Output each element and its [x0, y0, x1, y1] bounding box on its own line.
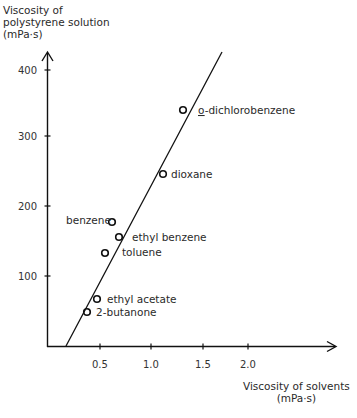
label-2-butanone: 2-butanone: [96, 306, 157, 318]
label-o-dichlorobenzene: o-dichlorobenzene: [198, 104, 295, 116]
chart-plot: 400 300 200 100 0.5 1.0 1.5 2.0 o-dichlo…: [0, 0, 357, 418]
x-tick-0-5: 0.5: [92, 359, 108, 370]
point-toluene: [102, 250, 109, 257]
label-benzene: benzene: [66, 214, 111, 226]
x-ticks: 0.5 1.0 1.5 2.0: [92, 344, 256, 371]
point-ethyl-benzene: [116, 234, 123, 241]
y-tick-100: 100: [18, 271, 37, 282]
point-dioxane: [160, 171, 167, 178]
label-ethyl-acetate: ethyl acetate: [107, 293, 177, 305]
label-toluene: toluene: [122, 246, 162, 258]
point-o-dichlorobenzene: [180, 107, 187, 114]
x-tick-2-0: 2.0: [240, 359, 256, 370]
label-ethyl-benzene: ethyl benzene: [132, 231, 207, 243]
x-tick-1-0: 1.0: [143, 359, 159, 370]
y-tick-400: 400: [18, 65, 37, 76]
point-ethyl-acetate: [94, 296, 101, 303]
x-tick-1-5: 1.5: [195, 359, 211, 370]
y-tick-200: 200: [18, 201, 37, 212]
label-dioxane: dioxane: [171, 168, 212, 180]
y-ticks: 400 300 200 100: [18, 65, 51, 282]
y-tick-300: 300: [18, 131, 37, 142]
